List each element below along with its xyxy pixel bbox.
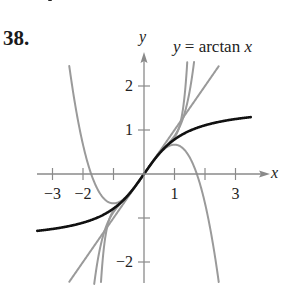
- y-tick-label: 2: [125, 77, 133, 94]
- y-tick-label: −2: [116, 253, 133, 270]
- x-ticks: −3−213: [44, 168, 240, 202]
- figure: 38. −3−213 21−2 x y y = arctan x y = arc…: [0, 0, 286, 285]
- x-tick-label: 1: [171, 185, 179, 202]
- x-tick-label: −3: [44, 185, 61, 202]
- x-axis-label: x: [270, 164, 278, 181]
- x-tick-label: 3: [232, 185, 240, 202]
- x-tick-label: −2: [74, 185, 91, 202]
- curve-annotation: y = arctan x: [171, 37, 252, 56]
- y-tick-label: 1: [125, 121, 133, 138]
- plot-area: −3−213 21−2 x y y = arctan x y = arctan …: [0, 0, 286, 285]
- y-axis-label: y: [137, 28, 147, 46]
